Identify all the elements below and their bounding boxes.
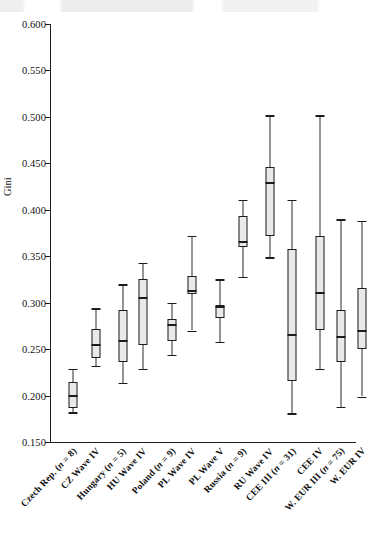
y-axis-tick-label: 0.450	[22, 158, 46, 169]
whisker-cap-upper	[358, 221, 367, 223]
y-axis-tick	[45, 303, 51, 304]
plot-area	[50, 24, 356, 442]
median-line	[216, 306, 225, 308]
whisker-cap-lower	[119, 383, 128, 385]
whisker-cap-upper	[119, 284, 128, 286]
whisker-cap-lower	[188, 331, 197, 333]
whisker-cap-upper	[266, 115, 275, 117]
whisker-cap-upper	[216, 279, 225, 281]
interquartile-box	[316, 236, 325, 331]
whisker-cap-lower	[316, 369, 325, 371]
whisker-cap-lower	[92, 366, 101, 368]
whisker-cap-lower	[337, 407, 346, 409]
y-axis-tick-label: 0.200	[22, 390, 46, 401]
box-plot-group	[231, 24, 255, 442]
y-axis-tick-label: 0.500	[22, 111, 46, 122]
median-line	[139, 297, 148, 299]
interquartile-box	[119, 310, 128, 362]
whisker-cap-lower	[266, 257, 275, 259]
y-axis-tick	[45, 24, 51, 25]
median-line	[266, 182, 275, 184]
median-line	[92, 344, 101, 346]
y-axis-tick	[45, 256, 51, 257]
whisker-cap-lower	[358, 397, 367, 399]
whisker-cap-upper	[288, 200, 297, 202]
whisker-cap-lower	[239, 277, 248, 279]
box-plot-chart: Gini 0.6000.5500.5000.4500.4000.3500.300…	[0, 0, 368, 538]
y-axis-tick-label: 0.600	[22, 19, 46, 30]
median-line	[168, 324, 177, 326]
median-line	[119, 340, 128, 342]
whisker-cap-lower	[288, 413, 297, 415]
box-plot-group	[258, 24, 282, 442]
interquartile-box	[358, 288, 367, 349]
whisker-cap-lower	[216, 342, 225, 344]
y-axis-tick-label: 0.300	[22, 297, 46, 308]
whisker-cap-upper	[139, 263, 148, 265]
interquartile-box	[168, 319, 177, 341]
y-axis-tick-label: 0.550	[22, 65, 46, 76]
whisker-cap-upper	[337, 219, 346, 221]
y-axis-tick	[45, 117, 51, 118]
whisker-cap-upper	[239, 200, 248, 202]
median-line	[239, 241, 248, 243]
box-plot-group	[84, 24, 108, 442]
interquartile-box	[266, 167, 275, 236]
whisker-cap-upper	[92, 308, 101, 310]
whisker-cap-upper	[188, 236, 197, 238]
whisker-cap-lower	[139, 369, 148, 371]
median-line	[337, 336, 346, 338]
y-axis-tick	[45, 349, 51, 350]
box-plot-group	[180, 24, 204, 442]
box-plot-group	[350, 24, 368, 442]
y-axis-tick-label: 0.400	[22, 204, 46, 215]
box-plot-group	[61, 24, 85, 442]
y-axis-tick-label: 0.250	[22, 344, 46, 355]
whisker-cap-upper	[168, 303, 177, 305]
box-plot-group	[131, 24, 155, 442]
median-line	[69, 395, 78, 397]
whisker-cap-lower	[168, 355, 177, 357]
y-axis-tick-label: 0.350	[22, 251, 46, 262]
y-axis-tick	[45, 396, 51, 397]
median-line	[288, 334, 297, 336]
median-line	[316, 292, 325, 294]
y-axis-tick	[45, 163, 51, 164]
y-axis-tick-label: 0.150	[22, 437, 46, 448]
x-axis-category-labels: Czech Rep. (n = 8)CZ Wave IVHungary (n =…	[50, 442, 368, 538]
median-line	[188, 290, 197, 292]
y-axis-line	[50, 24, 51, 442]
interquartile-box	[288, 249, 297, 381]
y-axis-tick-labels: 0.6000.5500.5000.4500.4000.3500.3000.250…	[0, 24, 46, 442]
box-plot-group	[280, 24, 304, 442]
interquartile-box	[139, 279, 148, 346]
whisker-cap-upper	[69, 369, 78, 371]
median-line	[358, 330, 367, 332]
box-plot-group	[208, 24, 232, 442]
whisker-cap-lower	[69, 412, 78, 414]
y-axis-tick	[45, 210, 51, 211]
scan-artifact	[0, 0, 368, 12]
whisker-cap-upper	[316, 115, 325, 117]
y-axis-tick	[45, 70, 51, 71]
